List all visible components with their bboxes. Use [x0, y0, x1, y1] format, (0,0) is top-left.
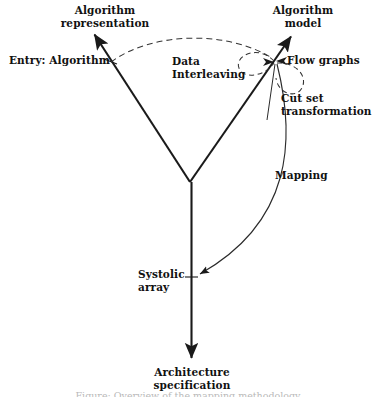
figure-caption: Figure: Overview of the mapping methodol…	[0, 390, 376, 397]
node-label-flow-graphs: Flow graphs	[287, 54, 360, 67]
stub-below-flow-graphs	[267, 64, 275, 120]
arrowhead-into-flow-graphs	[276, 57, 287, 65]
edge-label-mapping: Mapping	[275, 169, 328, 182]
node-label-systolic-array: Systolic array	[138, 268, 185, 293]
edge-label-cut-set-transformation: Cut set transformation	[281, 92, 372, 117]
node-label-entry-algorithm: Entry: Algorithm	[9, 54, 110, 67]
edge-mapping-flow-graphs-to-systolic-array	[200, 64, 286, 274]
node-label-algorithm-model: Algorithm model	[273, 4, 334, 29]
diagram-canvas: Algorithm representation Algorithm model…	[0, 0, 376, 397]
edge-label-data-interleaving: Data Interleaving	[172, 55, 245, 80]
node-label-architecture-specification: Architecture specification	[154, 366, 231, 391]
node-label-algorithm-representation: Algorithm representation	[61, 4, 150, 29]
